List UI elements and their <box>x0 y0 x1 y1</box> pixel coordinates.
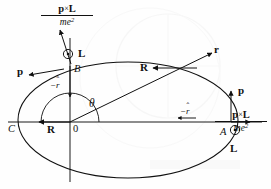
L-label-top: L <box>78 48 85 59</box>
pxL-over-mesq-top-label: p×L me2 <box>41 4 93 27</box>
point-C-label: C <box>8 124 15 135</box>
figure-canvas: p×L me2 p×L me2 L L p p r R R A B C 0 θ … <box>0 0 271 189</box>
R-label-left: R <box>47 124 55 135</box>
frac-right-L: L <box>243 109 250 120</box>
minus-rhat-A-hat: ˆ <box>186 103 190 111</box>
minus-rhat-label-B: −ˆr <box>50 81 60 90</box>
r-vector-label: r <box>214 44 219 55</box>
frac-top-den: me <box>60 17 71 27</box>
p-left-vector <box>29 69 64 75</box>
diagram-svg <box>0 0 271 189</box>
out-of-page-icon-top <box>63 49 72 58</box>
theta-label: θ <box>89 98 95 110</box>
point-A-label: A <box>220 127 226 138</box>
p-label-left: p <box>17 66 23 77</box>
minus-rhat-B-hat: ˆ <box>56 77 60 85</box>
p-label-right: p <box>238 85 244 96</box>
frac-right-den: me <box>234 123 245 133</box>
scan-watermark <box>80 8 240 169</box>
frac-top-L: L <box>69 3 76 14</box>
pxL-top-vector <box>60 30 71 64</box>
frac-right-den-exp: 2 <box>245 122 248 129</box>
frac-top-den-exp: 2 <box>71 16 74 23</box>
L-label-bottom: L <box>230 143 237 154</box>
minus-rhat-label-A: −ˆr <box>180 107 190 116</box>
R-label-upper: R <box>140 62 148 73</box>
point-B-label: B <box>74 64 80 75</box>
origin-label: 0 <box>73 124 78 135</box>
